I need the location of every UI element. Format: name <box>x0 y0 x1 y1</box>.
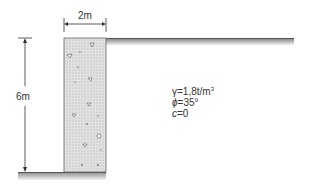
c-value: =0 <box>177 108 188 119</box>
unit-weight: γ=1,8t/m3 <box>172 86 214 97</box>
soil-parameters: γ=1,8t/m3 ϕ=35° c=0 <box>172 86 214 119</box>
cohesion: c=0 <box>172 108 214 119</box>
height-dimension <box>18 38 32 172</box>
gamma-value: =1,8t/m <box>177 86 211 97</box>
retaining-wall-diagram <box>0 0 310 184</box>
base-ground <box>18 172 106 180</box>
phi-value: =35° <box>178 97 199 108</box>
wall-height-label: 6m <box>16 91 30 102</box>
wall-width-label: 2m <box>78 10 92 21</box>
backfill-surface <box>106 38 294 45</box>
friction-angle: ϕ=35° <box>172 97 214 108</box>
gamma-unit-exponent: 3 <box>211 86 214 92</box>
